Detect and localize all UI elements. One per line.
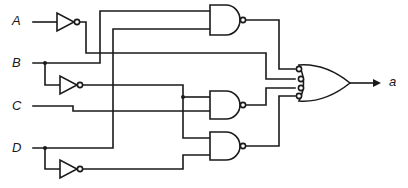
not-gate-d <box>60 160 77 178</box>
wire-nand3-out <box>246 96 295 146</box>
input-label-b: B <box>12 56 21 69</box>
output-label-a: a <box>389 75 396 88</box>
input-label-d: D <box>12 141 21 154</box>
not-gate-b <box>60 76 77 94</box>
output-arrow-icon <box>373 79 381 87</box>
logic-circuit <box>0 0 408 188</box>
input-label-a: A <box>12 14 21 27</box>
wire-nand1-out <box>246 20 295 69</box>
not-gate-a <box>57 13 74 31</box>
or-input-bubble-2 <box>298 76 303 81</box>
wire-b-branch <box>45 63 60 85</box>
nand-bubble-3 <box>240 143 245 148</box>
or-gate <box>299 65 350 101</box>
or-input-bubble-1 <box>296 66 301 71</box>
nand-gate-2 <box>210 91 240 119</box>
inverter-bubble-d <box>77 166 82 171</box>
nand-gate-1 <box>210 5 240 35</box>
inverter-bubble-b <box>77 82 82 87</box>
inverter-bubble-a <box>74 19 79 24</box>
nand-bubble-1 <box>240 17 245 22</box>
nand-bubble-2 <box>240 102 245 107</box>
or-input-bubble-4 <box>296 93 301 98</box>
input-label-c: C <box>12 99 21 112</box>
or-input-bubble-3 <box>298 85 303 90</box>
wire-d-not <box>83 155 210 169</box>
wire-d-branch <box>45 148 60 169</box>
nand-gate-3 <box>210 132 240 160</box>
